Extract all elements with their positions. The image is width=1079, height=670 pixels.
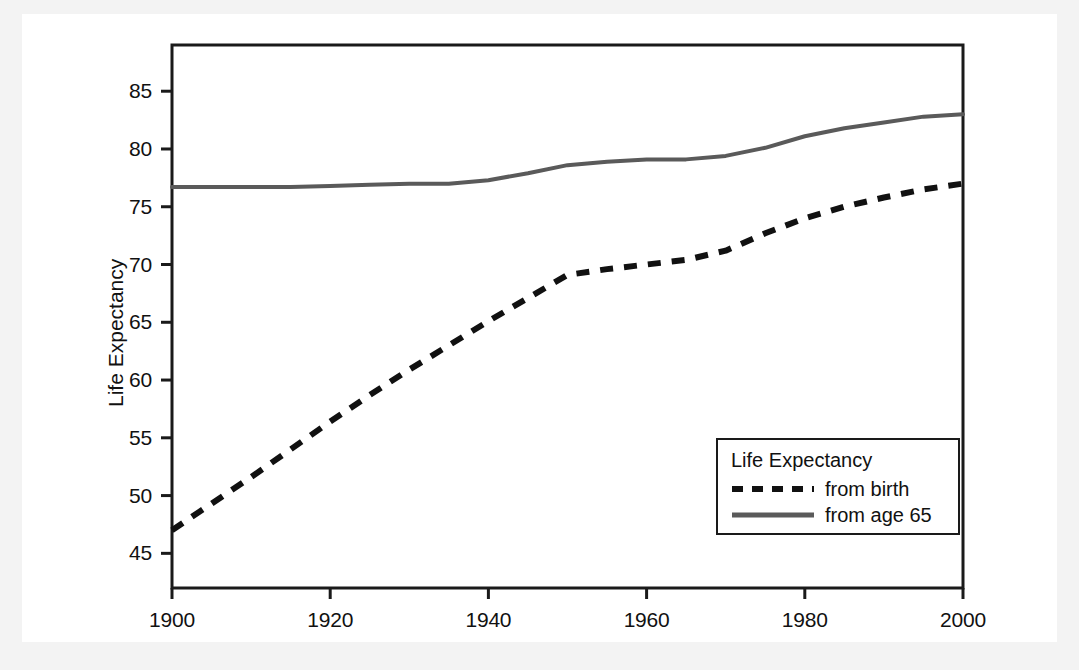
x-axis-tick-label: 1920 xyxy=(307,608,353,632)
chart-legend: Life Expectancy from birth from age 65 xyxy=(716,438,960,535)
y-axis-tick-label: 80 xyxy=(106,137,152,161)
series-line-from-age-65 xyxy=(172,114,963,187)
legend-solid-line-icon xyxy=(731,507,815,523)
legend-label-from-birth: from birth xyxy=(825,478,909,501)
y-axis-tick-label: 50 xyxy=(106,484,152,508)
chart-plot-svg xyxy=(0,0,1079,670)
x-axis-ticks xyxy=(172,588,963,599)
y-axis-tick-label: 55 xyxy=(106,426,152,450)
y-axis-tick-label: 70 xyxy=(106,253,152,277)
y-axis-tick-label: 45 xyxy=(106,541,152,565)
x-axis-tick-label: 1940 xyxy=(465,608,511,632)
x-axis-tick-label: 1980 xyxy=(782,608,828,632)
legend-dashed-line-icon xyxy=(731,481,815,497)
life-expectancy-line-chart: Life Expectancy 455055606570758085 19001… xyxy=(0,0,1079,670)
x-axis-tick-label: 1900 xyxy=(149,608,195,632)
y-axis-tick-label: 60 xyxy=(106,368,152,392)
y-axis-tick-label: 75 xyxy=(106,195,152,219)
legend-label-from-age-65: from age 65 xyxy=(825,504,932,527)
x-axis-tick-label: 1960 xyxy=(624,608,670,632)
y-axis-tick-label: 85 xyxy=(106,79,152,103)
legend-entry-from-birth: from birth xyxy=(731,476,909,502)
legend-entry-from-age-65: from age 65 xyxy=(731,502,932,528)
y-axis-ticks xyxy=(161,91,172,553)
y-axis-tick-label: 65 xyxy=(106,310,152,334)
x-axis-tick-label: 2000 xyxy=(940,608,986,632)
legend-title: Life Expectancy xyxy=(731,449,872,472)
